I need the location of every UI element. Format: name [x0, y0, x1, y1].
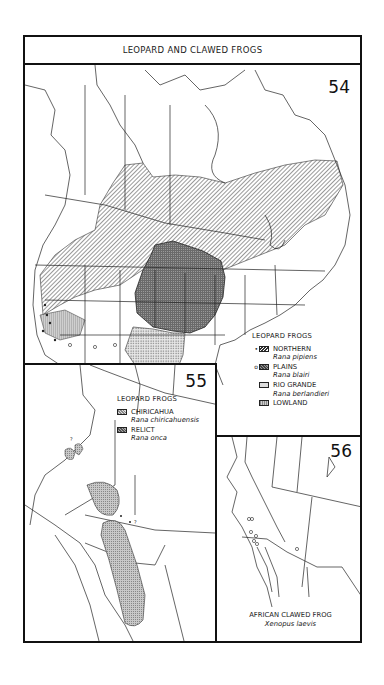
legend-label: CHIRICAHUA	[131, 408, 174, 417]
legend-heading: LEOPARD FROGS	[117, 395, 199, 404]
legend-label: PLAINS	[273, 363, 297, 372]
map-number-56: 56	[330, 441, 352, 461]
map-55-question-mark: ?	[70, 436, 73, 442]
map-56-california: 56 AFRICAN CLAWED FROG Xenopus laevis	[215, 435, 362, 643]
map-56-caption: AFRICAN CLAWED FROG Xenopus laevis	[217, 611, 362, 629]
legend-label: RIO GRANDE	[273, 381, 316, 390]
figure-title: LEOPARD AND CLAWED FROGS	[123, 45, 263, 55]
caption-common-name: AFRICAN CLAWED FROG	[217, 611, 362, 620]
diagonal-hatch-swatch-icon	[259, 346, 269, 352]
legend-scientific-name: Rana berlandieri	[252, 390, 329, 399]
legend-scientific-name: Rana pipiens	[252, 353, 329, 362]
legend-scientific-name: Rana onca	[117, 434, 199, 443]
legend-item-relict: RELICT	[117, 426, 199, 435]
legend-item-plains: o PLAINS	[252, 363, 329, 372]
legend-label: NORTHERN	[273, 345, 311, 354]
figure-title-bar: LEOPARD AND CLAWED FROGS	[23, 35, 362, 65]
legend-item-northern: • NORTHERN	[252, 345, 329, 354]
dot-marker-icon: •	[252, 345, 258, 354]
map-number-55: 55	[185, 371, 207, 391]
dark-crosshatch-swatch-icon	[117, 427, 127, 433]
dark-crosshatch-swatch-icon	[259, 364, 269, 370]
map-55-southwest: ? ? 55 LEOPARD FROGS CHIRICAHUA Rana chi…	[23, 363, 217, 643]
legend-scientific-name: Rana chiricahuensis	[117, 416, 199, 425]
map-number-54: 54	[328, 77, 350, 97]
legend-item-rio-grande: RIO GRANDE	[252, 381, 329, 390]
map-55-question-mark: ?	[134, 519, 137, 525]
circle-marker-icon: o	[252, 363, 258, 372]
map-54-legend: LEOPARD FROGS • NORTHERN Rana pipiens o …	[252, 332, 329, 408]
legend-heading: LEOPARD FROGS	[252, 332, 329, 341]
legend-label: RELICT	[131, 426, 155, 435]
legend-item-lowland: LOWLAND	[252, 399, 329, 408]
stipple-swatch-icon	[259, 382, 269, 388]
caption-scientific-name: Xenopus laevis	[217, 620, 362, 629]
legend-scientific-name: Rana blairi	[252, 371, 329, 380]
light-hatch-swatch-icon	[259, 400, 269, 406]
light-crosshatch-swatch-icon	[117, 409, 127, 415]
legend-item-chiricahua: CHIRICAHUA	[117, 408, 199, 417]
legend-label: LOWLAND	[273, 399, 308, 408]
map-55-legend: LEOPARD FROGS CHIRICAHUA Rana chiricahue…	[117, 395, 199, 444]
